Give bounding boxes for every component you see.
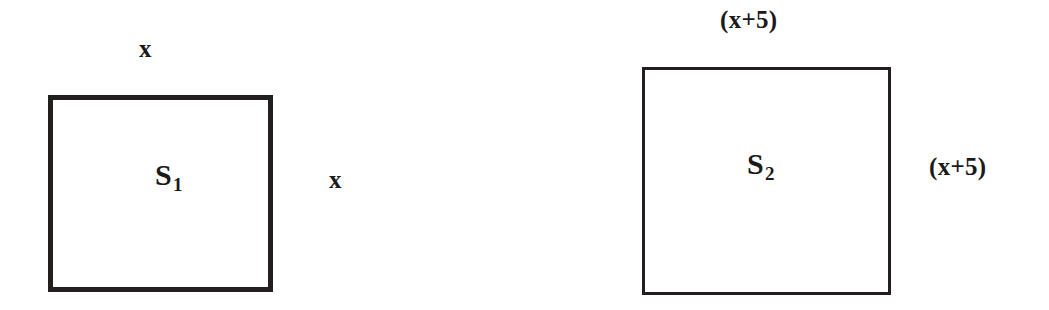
square-s1-name-label: S1	[155, 160, 182, 190]
geometry-figure-canvas: S1 x x S2 (x+5) (x+5)	[0, 0, 1049, 310]
square-s2-right-side-label: (x+5)	[929, 154, 986, 179]
square-s1-right-side-label: x	[329, 167, 342, 192]
square-s1-name-subscript: 1	[173, 174, 183, 195]
square-s2-top-side-label: (x+5)	[720, 7, 777, 32]
square-s1-shape	[48, 95, 273, 292]
square-s1-top-side-label: x	[139, 36, 152, 61]
square-s2-name-label: S2	[747, 149, 774, 179]
square-s1-name-letter: S	[155, 158, 172, 191]
square-s2-name-subscript: 2	[765, 163, 775, 184]
square-s2-name-letter: S	[747, 147, 764, 180]
